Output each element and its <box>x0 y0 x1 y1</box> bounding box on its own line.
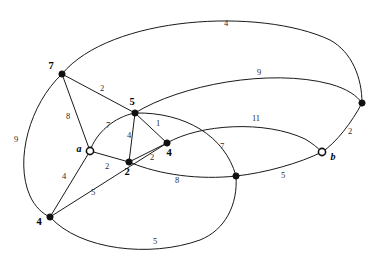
edge-weight-label: 5 <box>281 170 285 180</box>
edge-weight-label: 5 <box>91 187 95 197</box>
edge-weight-labels-layer: 4289724412558511927 <box>14 18 352 246</box>
graph-edge[interactable] <box>135 113 167 143</box>
node-label: b <box>331 151 336 162</box>
graph-edge[interactable] <box>129 143 167 162</box>
graph-edge[interactable] <box>135 78 362 113</box>
node-label: 4 <box>36 216 42 227</box>
graph-edge[interactable] <box>62 21 362 103</box>
edge-weight-label: 9 <box>14 134 18 144</box>
edges-layer <box>24 21 362 249</box>
graph-node[interactable] <box>233 173 239 179</box>
graph-edge[interactable] <box>167 127 322 152</box>
edge-weight-label: 2 <box>348 126 352 136</box>
edge-weight-label: 7 <box>106 120 110 130</box>
edge-weight-label: 5 <box>153 236 157 246</box>
graph-node[interactable] <box>164 140 170 146</box>
graph-edge[interactable] <box>24 74 62 217</box>
edge-weight-label: 8 <box>175 175 179 185</box>
edge-weight-label: 8 <box>66 111 70 121</box>
graph-edge[interactable] <box>50 151 90 217</box>
graph-node[interactable] <box>132 110 138 116</box>
node-label: 4 <box>166 147 172 158</box>
edge-weight-label: 4 <box>224 18 229 28</box>
graph-edge[interactable] <box>50 176 236 249</box>
graph-node-terminal[interactable] <box>86 147 93 154</box>
graph-edge[interactable] <box>322 103 362 152</box>
edge-weight-label: 7 <box>220 141 224 151</box>
node-label: 5 <box>129 96 134 107</box>
graph-svg: 4289724412558511927 75a244b <box>0 0 379 264</box>
edge-weight-label: 2 <box>100 83 104 93</box>
node-label: 7 <box>48 60 53 71</box>
graph-edge[interactable] <box>62 74 135 113</box>
graph-edge[interactable] <box>129 162 236 177</box>
graph-edge[interactable] <box>236 152 322 176</box>
node-labels-layer: 75a244b <box>36 60 335 227</box>
edge-weight-label: 2 <box>150 152 154 162</box>
node-label: 2 <box>124 166 129 177</box>
graph-node[interactable] <box>359 100 365 106</box>
edge-weight-label: 9 <box>257 67 261 77</box>
graph-edge[interactable] <box>90 151 129 162</box>
edge-weight-label: 1 <box>156 118 160 128</box>
edge-weight-label: 4 <box>127 130 132 140</box>
edge-weight-label: 11 <box>252 113 260 123</box>
edge-weight-label: 2 <box>105 161 109 171</box>
graph-node[interactable] <box>47 214 53 220</box>
graph-node[interactable] <box>59 71 65 77</box>
graph-node[interactable] <box>126 159 132 165</box>
graph-node-terminal[interactable] <box>318 148 325 155</box>
node-label: a <box>77 143 82 154</box>
edge-weight-label: 4 <box>62 171 67 181</box>
diagram-canvas: 4289724412558511927 75a244b <box>0 0 379 264</box>
nodes-layer <box>47 71 365 220</box>
